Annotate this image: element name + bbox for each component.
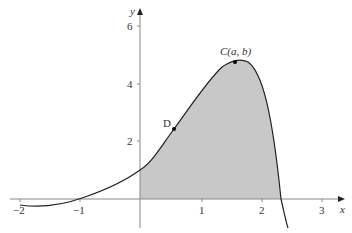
tick-label-y4: 4: [127, 79, 133, 90]
x-axis-arrow: [338, 196, 345, 202]
point-d-label: D: [163, 118, 171, 129]
point-d: [172, 127, 176, 131]
graph-canvas: [0, 0, 352, 233]
tick-label-1: 1: [199, 205, 205, 216]
tick-label-y6: 6: [127, 21, 133, 32]
point-c-label: C(a, b): [220, 46, 251, 57]
tick-label-2: 2: [259, 205, 265, 216]
x-axis-label: x: [340, 204, 345, 215]
tick-label-neg2: −2: [13, 205, 25, 216]
y-axis-arrow: [137, 8, 143, 15]
point-c: [233, 60, 237, 64]
tick-label-3: 3: [319, 205, 325, 216]
y-axis-label: y: [130, 6, 135, 17]
tick-label-neg1: −1: [73, 205, 85, 216]
tick-label-y2: 2: [127, 136, 133, 147]
